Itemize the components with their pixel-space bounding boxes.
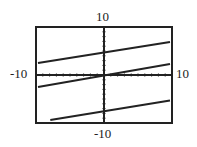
series-line	[50, 100, 170, 120]
plot-area	[0, 0, 197, 147]
